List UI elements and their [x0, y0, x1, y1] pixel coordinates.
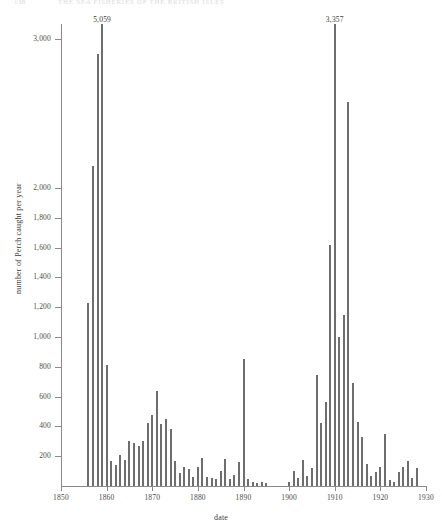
bar	[147, 423, 149, 486]
y-tick-label: 1,600	[0, 243, 51, 252]
y-tick-label: 1,800	[0, 213, 51, 222]
bar	[151, 415, 153, 487]
x-tick-label: 1900	[281, 493, 297, 502]
bar	[233, 475, 235, 486]
x-tick	[152, 486, 153, 491]
figure-page: 138 THE SEA FISHERIES OF THE BRITISH ISL…	[0, 0, 442, 531]
y-tick-label: 2,000	[0, 183, 51, 192]
bar	[174, 461, 176, 486]
x-tick-label: 1850	[53, 493, 69, 502]
bar	[311, 468, 313, 486]
x-tick-label: 1930	[418, 493, 434, 502]
x-axis-title: date	[0, 513, 442, 522]
bar	[343, 315, 345, 486]
y-tick-label: 1,000	[0, 332, 51, 341]
bar	[293, 471, 295, 486]
bar	[106, 365, 108, 486]
bar	[302, 460, 304, 486]
x-tick	[335, 486, 336, 491]
bar	[306, 476, 308, 486]
x-tick-label: 1920	[372, 493, 388, 502]
bar	[370, 476, 372, 486]
x-tick-label: 1910	[327, 493, 343, 502]
bar	[87, 303, 89, 486]
x-tick-label: 1870	[144, 493, 160, 502]
bar	[407, 461, 409, 486]
bar	[179, 473, 181, 486]
y-tick-label: 1,400	[0, 272, 51, 281]
bar	[110, 461, 112, 486]
x-tick	[107, 486, 108, 491]
perch-catch-bar-chart: 2004006008001,0001,2001,4001,6001,8002,0…	[0, 0, 442, 531]
bar	[256, 483, 258, 486]
y-tick-label: 600	[0, 392, 51, 401]
bar	[188, 469, 190, 486]
bar	[366, 464, 368, 486]
bar	[384, 434, 386, 486]
bar	[170, 429, 172, 486]
bar	[220, 471, 222, 486]
x-tick	[198, 486, 199, 491]
bar	[297, 478, 299, 486]
bar	[197, 467, 199, 486]
x-tick	[426, 486, 427, 491]
bar	[224, 459, 226, 486]
bar	[229, 479, 231, 486]
bar	[156, 391, 158, 486]
bar	[201, 458, 203, 486]
bar	[142, 441, 144, 486]
bar	[211, 478, 213, 486]
bar-series	[61, 24, 426, 486]
bar	[375, 472, 377, 486]
x-tick	[61, 486, 62, 491]
bar	[361, 437, 363, 486]
bar	[243, 359, 245, 486]
bar	[192, 477, 194, 486]
y-axis-ticks: 2004006008001,0001,2001,4001,6001,8002,0…	[0, 0, 61, 531]
bar	[133, 443, 135, 486]
bar	[393, 482, 395, 487]
y-tick-label: 800	[0, 362, 51, 371]
bar	[115, 465, 117, 486]
bar	[261, 482, 263, 486]
bar	[138, 446, 140, 486]
bar	[411, 478, 413, 486]
bar	[252, 482, 254, 486]
bar	[334, 24, 336, 486]
x-tick	[289, 486, 290, 491]
peak-value-label: 3,357	[326, 15, 344, 24]
y-tick-label: 1,200	[0, 302, 51, 311]
bar	[101, 24, 103, 486]
bar	[215, 479, 217, 486]
x-tick-label: 1890	[236, 493, 252, 502]
bar	[92, 166, 94, 486]
y-tick-label: 200	[0, 451, 51, 460]
x-tick	[380, 486, 381, 491]
bar	[352, 383, 354, 486]
bar	[357, 422, 359, 486]
y-axis-title: number of Perch caught per year	[14, 159, 23, 319]
bar	[160, 424, 162, 486]
bar	[265, 483, 267, 486]
y-tick-label: 3,000	[0, 34, 51, 43]
x-tick-label: 1880	[190, 493, 206, 502]
bar	[325, 402, 327, 486]
bar	[389, 480, 391, 486]
bar	[119, 455, 121, 486]
bar	[124, 460, 126, 486]
bar	[416, 468, 418, 486]
x-tick-label: 1860	[99, 493, 115, 502]
x-tick	[244, 486, 245, 491]
bar	[165, 419, 167, 486]
peak-value-label: 5,059	[93, 15, 111, 24]
bar	[379, 467, 381, 486]
bar	[247, 479, 249, 487]
bar	[398, 472, 400, 486]
bar	[347, 102, 349, 487]
bar	[329, 245, 331, 486]
y-tick-label: 400	[0, 421, 51, 430]
bar	[316, 375, 318, 486]
bar	[320, 423, 322, 486]
bar	[288, 482, 290, 486]
bar	[97, 54, 99, 486]
